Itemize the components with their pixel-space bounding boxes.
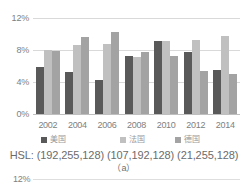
bar[interactable] (103, 44, 111, 114)
bar[interactable] (162, 41, 170, 114)
bar[interactable] (192, 40, 200, 114)
bar[interactable] (200, 71, 208, 114)
legend-swatch-icon (120, 137, 126, 143)
bar[interactable] (111, 32, 119, 114)
bar[interactable] (184, 52, 192, 114)
bar[interactable] (229, 74, 237, 114)
bar-group (151, 18, 181, 114)
bar[interactable] (81, 37, 89, 114)
legend-label: 美国 (50, 136, 66, 144)
hsl-annotation: HSL: (192,255,128) (107,192,128) (21,255… (0, 149, 248, 162)
bar[interactable] (65, 72, 73, 114)
legend-item-usa[interactable]: 美国 (41, 136, 66, 144)
bar-group (63, 18, 93, 114)
legend-label: 法国 (129, 136, 145, 144)
next-figure-gridline (33, 179, 240, 180)
plot-area (33, 0, 240, 122)
legend-swatch-icon (41, 137, 47, 143)
grouped-bar-chart: 12% 8% 4% 0% 200220042006200820102012201… (0, 0, 248, 122)
bar[interactable] (213, 70, 221, 114)
gridline-0 (33, 114, 240, 115)
bar[interactable] (52, 51, 60, 114)
bar[interactable] (221, 36, 229, 114)
x-axis-tick: 2006 (92, 118, 122, 132)
x-axis-tick: 2012 (181, 118, 211, 132)
bar[interactable] (133, 57, 141, 114)
next-figure-y-tick: 12% (13, 174, 30, 185)
bar-group (92, 18, 122, 114)
x-axis: 2002200420062008201020122014 (33, 118, 240, 132)
bar[interactable] (73, 45, 81, 114)
chart-legend: 美国 法国 德国 (33, 134, 238, 146)
bar-groups (33, 18, 240, 114)
x-axis-tick: 2004 (63, 118, 93, 132)
y-axis-tick: 12% (12, 14, 29, 23)
legend-swatch-icon (175, 137, 181, 143)
figure-caption: （a） (0, 163, 248, 174)
next-figure-preview: 12% (0, 174, 248, 185)
legend-item-france[interactable]: 法国 (120, 136, 145, 144)
bar[interactable] (36, 67, 44, 114)
bar[interactable] (44, 50, 52, 114)
legend-label: 德国 (184, 136, 200, 144)
y-axis-tick: 4% (16, 78, 29, 87)
y-axis-tick: 8% (16, 46, 29, 55)
figure-panel-a: 12% 8% 4% 0% 200220042006200820102012201… (0, 0, 248, 185)
bar[interactable] (154, 41, 162, 114)
bar-group (33, 18, 63, 114)
bar[interactable] (125, 56, 133, 114)
bar-group (122, 18, 152, 114)
x-axis-tick: 2014 (210, 118, 240, 132)
bar[interactable] (141, 52, 149, 114)
bar[interactable] (170, 56, 178, 114)
x-axis-tick: 2008 (122, 118, 152, 132)
bar[interactable] (95, 80, 103, 114)
y-axis-tick: 0% (16, 110, 29, 119)
bar-group (210, 18, 240, 114)
x-axis-tick: 2002 (33, 118, 63, 132)
y-axis: 12% 8% 4% 0% (0, 0, 32, 122)
bar-group (181, 18, 211, 114)
legend-item-germany[interactable]: 德国 (175, 136, 200, 144)
x-axis-tick: 2010 (151, 118, 181, 132)
